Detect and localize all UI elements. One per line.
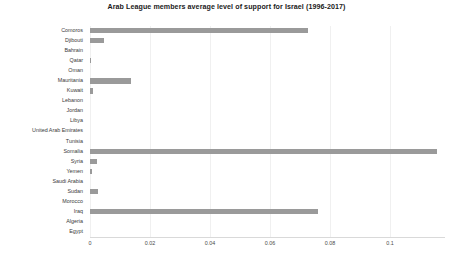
- bar[interactable]: [90, 159, 97, 164]
- y-axis-tick-label: Oman: [68, 66, 83, 76]
- y-axis-tick-label: United Arab Emirates: [32, 126, 83, 136]
- chart-title: Arab League members average level of sup…: [0, 3, 453, 11]
- y-axis-tick-label: Comoros: [61, 26, 83, 36]
- bar[interactable]: [90, 189, 98, 194]
- y-axis-tick-label: Syria: [71, 157, 83, 167]
- y-axis-tick-label: Jordan: [67, 106, 83, 116]
- y-axis-tick-label: Iraq: [74, 207, 83, 217]
- bar[interactable]: [90, 209, 318, 214]
- bar-row[interactable]: [90, 56, 445, 66]
- bar-row[interactable]: [90, 86, 445, 96]
- bar-row[interactable]: [90, 126, 445, 136]
- y-axis-tick-label: Somalia: [64, 147, 83, 157]
- y-axis-tick-label: Lebanon: [62, 96, 83, 106]
- bar-row[interactable]: [90, 167, 445, 177]
- x-axis-tick-label: 0.08: [325, 240, 336, 246]
- bar-row[interactable]: [90, 137, 445, 147]
- y-axis-tick-label: Saudi Arabia: [52, 177, 83, 187]
- x-axis-tick-label: 0: [89, 240, 92, 246]
- y-axis-tick-label: Mauritania: [58, 76, 83, 86]
- bar[interactable]: [90, 169, 92, 174]
- x-axis-tick-label: 0.02: [145, 240, 156, 246]
- y-axis-labels: ComorosDjiboutiBahrainQatarOmanMauritani…: [0, 26, 86, 237]
- plot-area: [90, 26, 445, 237]
- bar-row[interactable]: [90, 116, 445, 126]
- bar[interactable]: [90, 88, 93, 93]
- y-axis-tick-label: Qatar: [70, 56, 83, 66]
- bar-row[interactable]: [90, 217, 445, 227]
- bar-row[interactable]: [90, 187, 445, 197]
- y-axis-tick-label: Libya: [70, 116, 83, 126]
- y-axis-tick-label: Djibouti: [65, 36, 83, 46]
- bar-row[interactable]: [90, 26, 445, 36]
- bar-row[interactable]: [90, 227, 445, 237]
- bar-chart: Arab League members average level of sup…: [0, 0, 453, 259]
- bar[interactable]: [90, 58, 91, 63]
- y-axis-tick-label: Algeria: [66, 217, 83, 227]
- x-axis-tick-label: 0.1: [386, 240, 394, 246]
- bar-row[interactable]: [90, 96, 445, 106]
- x-axis-tick-label: 0.06: [265, 240, 276, 246]
- x-axis-tick-label: 0.04: [205, 240, 216, 246]
- y-axis-tick-label: Morocco: [62, 197, 83, 207]
- y-axis-tick-label: Tunisia: [66, 137, 83, 147]
- bar-row[interactable]: [90, 76, 445, 86]
- bar-row[interactable]: [90, 197, 445, 207]
- bar-row[interactable]: [90, 66, 445, 76]
- x-axis-line: [90, 237, 445, 238]
- bar-row[interactable]: [90, 36, 445, 46]
- bar-row[interactable]: [90, 46, 445, 56]
- bar-row[interactable]: [90, 207, 445, 217]
- y-axis-tick-label: Sudan: [67, 187, 83, 197]
- y-axis-tick-label: Bahrain: [64, 46, 83, 56]
- bar-row[interactable]: [90, 147, 445, 157]
- bar[interactable]: [90, 149, 437, 154]
- y-axis-tick-label: Yemen: [66, 167, 83, 177]
- bar[interactable]: [90, 28, 308, 33]
- bar-row[interactable]: [90, 177, 445, 187]
- x-axis-labels: 00.020.040.060.080.1: [0, 240, 453, 252]
- bar-row[interactable]: [90, 157, 445, 167]
- bar[interactable]: [90, 78, 131, 83]
- y-axis-tick-label: Kuwait: [67, 86, 83, 96]
- y-axis-tick-label: Egypt: [69, 227, 83, 237]
- bar-row[interactable]: [90, 106, 445, 116]
- bar[interactable]: [90, 38, 104, 43]
